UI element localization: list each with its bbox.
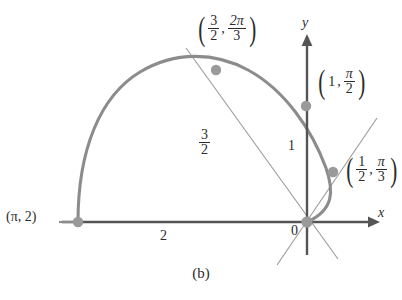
label-point-three-halves-two-pi-over-three: ( 3 2 , 2π 3 ) [196, 14, 258, 44]
radius-value: 1 [328, 75, 335, 89]
fraction-three-halves: 3 2 [208, 14, 219, 44]
label-axis-y: y [302, 16, 308, 30]
label-axis-x: x [378, 206, 384, 220]
label-segment-two: 2 [160, 229, 167, 243]
comma: , [369, 163, 373, 177]
fraction-two-pi-over-three: 2π 3 [228, 14, 246, 44]
paren-close: ) [358, 68, 365, 96]
fraction-pi-over-three: π 3 [376, 155, 387, 185]
paren-close: ) [249, 15, 256, 43]
point-half-pi-over-three [328, 167, 338, 177]
paren-open: ( [346, 156, 353, 184]
figure-caption: (b) [0, 266, 402, 281]
comma: , [337, 75, 341, 89]
label-point-one-pi-over-two: ( 1 , π 2 ) [316, 67, 367, 97]
fraction-one-half: 1 2 [356, 155, 367, 185]
point-origin [301, 216, 312, 227]
label-point-half-pi-over-three: ( 1 2 , π 3 ) [344, 155, 399, 185]
label-segment-one: 1 [288, 139, 295, 153]
paren-open: ( [198, 15, 205, 43]
fraction-pi-over-two: π 2 [344, 67, 355, 97]
paren-close: ) [390, 156, 397, 184]
label-segment-three-halves: 3 2 [199, 128, 210, 158]
point-left-pi-2 [73, 217, 83, 227]
paren-open: ( [318, 68, 325, 96]
fraction-three-halves-segment: 3 2 [199, 128, 210, 158]
label-point-pi-two: (π, 2) [6, 210, 36, 224]
point-three-halves-two-pi-over-three [211, 65, 221, 75]
point-one-pi-over-two [301, 101, 311, 111]
comma: , [221, 22, 225, 36]
label-origin-zero: 0 [291, 224, 298, 238]
y-axis-arrow-icon [302, 34, 313, 46]
